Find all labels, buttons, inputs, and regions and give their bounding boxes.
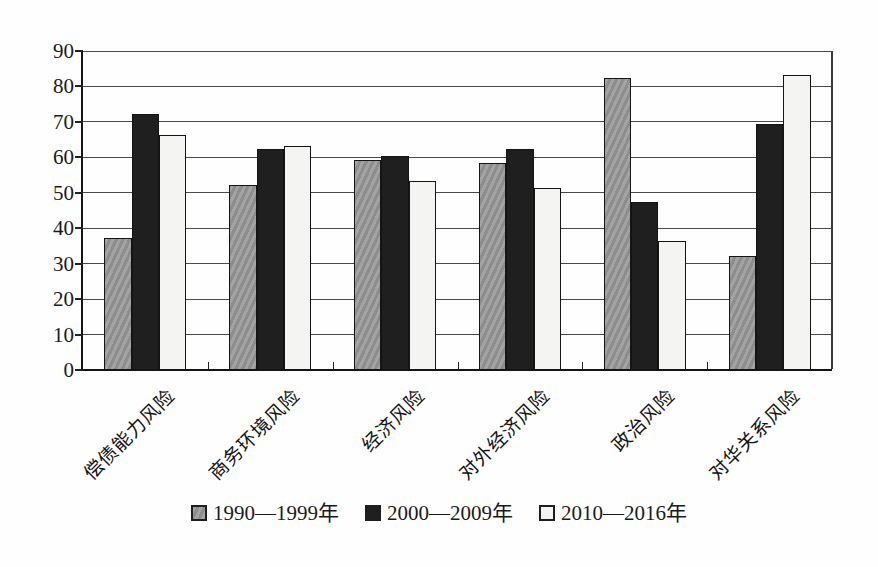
x-axis-label: 经济风险	[355, 381, 431, 457]
bar-series1-cat4	[479, 163, 506, 370]
x-axis-label: 对华关系风险	[701, 381, 805, 485]
y-axis-tick	[75, 263, 83, 265]
y-axis-tick	[75, 369, 83, 371]
gridline-30	[83, 263, 832, 264]
y-axis-tick	[75, 121, 83, 123]
y-axis-tick	[75, 50, 83, 52]
bar-series3-cat3	[409, 181, 436, 370]
y-axis-tick	[75, 227, 83, 229]
x-axis-label: 政治风险	[604, 381, 680, 457]
legend-label: 2000—2009年	[387, 502, 513, 524]
plot-right-border	[831, 51, 833, 369]
bar-series1-cat1	[104, 238, 131, 370]
x-axis-label: 偿债能力风险	[77, 381, 181, 485]
bar-series1-cat5	[604, 78, 631, 370]
bar-series1-cat3	[354, 160, 381, 370]
y-axis-label: 10	[32, 324, 74, 346]
gridline-90	[83, 51, 832, 52]
y-axis-label: 60	[32, 146, 74, 168]
bar-series3-cat6	[783, 75, 810, 370]
y-axis-tick	[75, 192, 83, 194]
chart-figure: 0102030405060708090 偿债能力风险商务环境风险经济风险对外经济…	[0, 0, 878, 567]
legend-swatch	[365, 505, 381, 521]
legend: 1990—1999年2000—2009年2010—2016年	[0, 502, 878, 524]
x-axis-line	[81, 369, 832, 371]
y-axis-label: 40	[32, 217, 74, 239]
legend-label: 2010—2016年	[561, 502, 687, 524]
y-axis-tick	[75, 156, 83, 158]
legend-item: 1990—1999年	[191, 502, 339, 524]
legend-item: 2010—2016年	[539, 502, 687, 524]
gridline-10	[83, 334, 832, 335]
legend-label: 1990—1999年	[213, 502, 339, 524]
bar-series2-cat2	[257, 149, 284, 370]
y-axis-label: 90	[32, 40, 74, 62]
bar-series1-cat6	[729, 256, 756, 370]
gridline-80	[83, 86, 832, 87]
gridline-50	[83, 192, 832, 193]
bar-series2-cat1	[132, 114, 159, 370]
bar-series3-cat2	[284, 146, 311, 370]
legend-item: 2000—2009年	[365, 502, 513, 524]
bar-series3-cat4	[534, 188, 561, 370]
gridline-70	[83, 121, 832, 122]
bar-series1-cat2	[229, 185, 256, 370]
gridline-40	[83, 228, 832, 229]
bar-series3-cat5	[658, 241, 685, 370]
gridline-20	[83, 299, 832, 300]
x-axis-label: 商务环境风险	[201, 381, 305, 485]
y-axis-tick	[75, 85, 83, 87]
legend-swatch	[191, 505, 207, 521]
y-axis-label: 0	[32, 359, 74, 381]
plot-area	[83, 51, 832, 370]
gridline-60	[83, 157, 832, 158]
y-axis-line	[81, 50, 83, 371]
y-axis-label: 70	[32, 111, 74, 133]
bar-series3-cat1	[159, 135, 186, 370]
bar-series2-cat6	[756, 124, 783, 370]
bar-series2-cat4	[506, 149, 533, 370]
bar-series2-cat5	[631, 202, 658, 370]
legend-swatch	[539, 505, 555, 521]
y-axis-label: 50	[32, 182, 74, 204]
y-axis-label: 30	[32, 253, 74, 275]
y-axis-tick	[75, 334, 83, 336]
y-axis-label: 80	[32, 75, 74, 97]
y-axis-label: 20	[32, 288, 74, 310]
x-axis-label: 对外经济风险	[451, 381, 555, 485]
y-axis-tick	[75, 298, 83, 300]
bar-series2-cat3	[381, 156, 408, 370]
